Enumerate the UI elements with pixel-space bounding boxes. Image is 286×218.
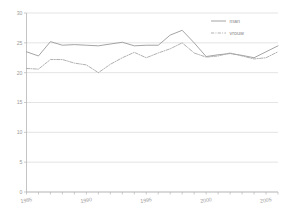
chart-plot-area: 051015202530 19851990199520002005 manvro… (0, 0, 286, 218)
legend-label-man: man (230, 18, 241, 24)
y-tick-label: 10 (17, 129, 23, 135)
y-tick-label: 0 (20, 189, 23, 195)
y-tick-label: 25 (17, 40, 23, 46)
line-chart: 051015202530 19851990199520002005 manvro… (0, 0, 286, 218)
y-tick-label: 20 (17, 70, 23, 76)
y-tick-label: 30 (17, 10, 23, 16)
y-tick-label: 5 (20, 159, 23, 165)
legend-label-vrouw: vrouw (230, 30, 244, 36)
y-tick-label: 15 (17, 99, 23, 105)
